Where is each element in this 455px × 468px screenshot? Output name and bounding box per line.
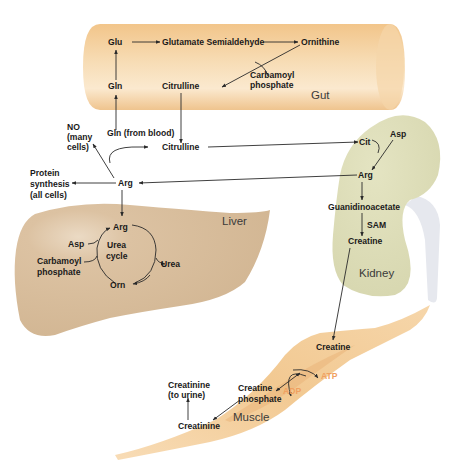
label-citrulline-gut: Citrulline: [162, 81, 199, 91]
label-creatinine-urine-1: Creatinine: [168, 380, 210, 390]
diagram-canvas: Gut Liver Kidney Muscle Glu Glutamate Se…: [0, 0, 455, 468]
label-citrulline-blood: Citrulline: [162, 142, 199, 152]
arrow-arg-to-no: [93, 144, 114, 178]
arrow-arg-to-citrulline: [109, 147, 148, 163]
label-carbamoyl-liver-2: phosphate: [37, 267, 80, 277]
label-cit-kidney: Cit: [359, 137, 370, 147]
label-orn: Orn: [110, 280, 125, 290]
label-ornithine: Ornithine: [301, 37, 339, 47]
label-carbamoyl-gut-2: phosphate: [250, 80, 293, 90]
organ-label-muscle: Muscle: [233, 411, 269, 423]
label-creatine-phosphate-2: phosphate: [238, 394, 281, 404]
label-urea-cycle-2: cycle: [106, 251, 128, 261]
organ-label-gut: Gut: [311, 89, 330, 101]
label-arg-blood: Arg: [118, 178, 133, 188]
label-asp-liver: Asp: [68, 239, 84, 249]
label-carbamoyl-liver-1: Carbamoyl: [37, 256, 81, 266]
label-asp-kidney: Asp: [390, 129, 406, 139]
label-atp: ATP: [321, 371, 338, 381]
label-adp: ADP: [283, 386, 301, 396]
label-creatinine-muscle: Creatinine: [178, 421, 220, 431]
label-carbamoyl-gut-1: Carbamoyl: [250, 70, 294, 80]
label-protein-2: synthesis: [30, 179, 70, 189]
label-creatinine-urine-2: (to urine): [168, 390, 205, 400]
arrow-citrulline-to-kidney: [208, 142, 358, 147]
label-gln-from-blood: Gln (from blood): [107, 128, 174, 138]
organ-label-liver: Liver: [222, 215, 247, 227]
label-urea: Urea: [161, 259, 180, 269]
label-sam: SAM: [367, 220, 386, 230]
label-creatine-kidney: Creatine: [348, 236, 382, 246]
label-glu: Glu: [108, 37, 122, 47]
label-no-3: cells): [67, 142, 89, 152]
label-no-2: (many: [67, 132, 92, 142]
muscle-organ: [115, 305, 430, 460]
label-urea-cycle-1: Urea: [107, 240, 126, 250]
label-no-1: NO: [67, 122, 80, 132]
label-guanidinoacetate: Guanidinoacetate: [328, 202, 400, 212]
label-glutamate-semialdehyde: Glutamate Semialdehyde: [162, 37, 264, 47]
label-gln: Gln: [108, 81, 122, 91]
arrow-kidney-arg-to-arg: [139, 175, 357, 183]
label-protein-3: (all cells): [30, 190, 67, 200]
organ-label-kidney: Kidney: [359, 267, 394, 279]
label-arg-kidney: Arg: [358, 170, 373, 180]
label-creatine-muscle: Creatine: [316, 342, 350, 352]
label-creatine-phosphate-1: Creatine: [238, 383, 272, 393]
label-arg-liver: Arg: [113, 222, 128, 232]
label-protein-1: Protein: [30, 168, 60, 178]
